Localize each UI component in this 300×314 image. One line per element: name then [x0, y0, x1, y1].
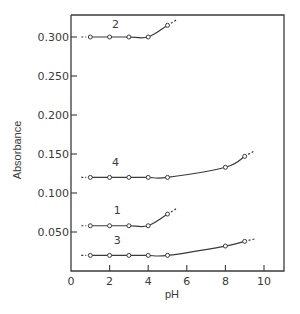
- data-point-marker: [223, 165, 227, 169]
- data-point-marker: [166, 175, 170, 179]
- y-tick-label: 0.300: [38, 31, 70, 44]
- x-tick-label: 0: [68, 275, 75, 288]
- curve-label: 4: [112, 156, 119, 169]
- curve-label: 2: [112, 18, 119, 31]
- data-point-marker: [166, 253, 170, 257]
- curve-extension: [248, 151, 253, 154]
- data-point-marker: [166, 212, 170, 216]
- axes-box: [71, 15, 284, 271]
- data-point-marker: [108, 253, 112, 257]
- y-tick-label: 0.250: [38, 70, 70, 83]
- curve-1: 1: [81, 204, 176, 228]
- data-point-marker: [146, 175, 150, 179]
- x-tick-label: 4: [145, 275, 152, 288]
- curve-extension: [249, 239, 255, 240]
- y-tick-label: 0.100: [38, 187, 70, 200]
- data-point-marker: [88, 253, 92, 257]
- curve-extension: [171, 20, 176, 23]
- curves: 2413: [81, 18, 254, 258]
- y-tick-label: 0.200: [38, 109, 70, 122]
- data-point-marker: [108, 224, 112, 228]
- plot-frame: [71, 15, 284, 271]
- data-point-marker: [243, 239, 247, 243]
- curve-3: 3: [81, 234, 254, 257]
- y-tick-label: 0.150: [38, 148, 70, 161]
- x-tick-label: 2: [106, 275, 113, 288]
- data-point-marker: [88, 224, 92, 228]
- curve-label: 3: [114, 234, 121, 247]
- data-point-marker: [243, 154, 247, 158]
- data-point-marker: [108, 175, 112, 179]
- data-point-marker: [127, 253, 131, 257]
- data-point-marker: [88, 175, 92, 179]
- x-tick-label: 10: [257, 275, 271, 288]
- absorbance-vs-ph-chart: 0246810 0.0500.1000.1500.2000.2500.300 2…: [0, 0, 300, 314]
- x-axis-label: pH: [165, 288, 179, 300]
- data-point-marker: [146, 253, 150, 257]
- curve-label: 1: [114, 204, 121, 217]
- y-axis-label: Absorbance: [11, 121, 23, 180]
- x-axis-ticks: 0246810: [68, 265, 272, 288]
- x-tick-label: 8: [222, 275, 229, 288]
- data-point-marker: [127, 175, 131, 179]
- data-point-marker: [166, 23, 170, 27]
- data-point-marker: [127, 35, 131, 39]
- curve-extension: [171, 209, 176, 212]
- data-point-marker: [88, 35, 92, 39]
- x-tick-label: 6: [183, 275, 190, 288]
- data-point-marker: [146, 224, 150, 228]
- data-point-marker: [146, 35, 150, 39]
- curve-2: 2: [81, 18, 176, 39]
- data-point-marker: [127, 224, 131, 228]
- data-point-marker: [223, 244, 227, 248]
- y-tick-label: 0.050: [38, 226, 70, 239]
- data-point-marker: [108, 35, 112, 39]
- curve-4: 4: [81, 151, 253, 179]
